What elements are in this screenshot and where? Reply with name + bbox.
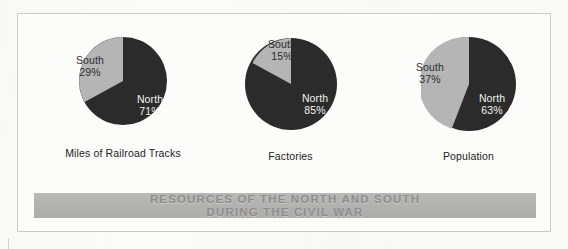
pie-graphic-factories <box>244 37 338 131</box>
figure-frame: South 29% North 71% Miles of Railroad Tr… <box>17 13 551 232</box>
pie-graphic-railroad <box>78 36 168 126</box>
pie-caption-factories: Factories <box>203 150 378 162</box>
pie-svg-population <box>421 36 517 132</box>
figure-title-banner: RESOURCES OF THE NORTH AND SOUTH DURING … <box>34 193 536 218</box>
pie-caption-railroad: Miles of Railroad Tracks <box>38 147 208 159</box>
pie-chart-railroad[interactable]: South 29% North 71% Miles of Railroad Tr… <box>38 14 208 184</box>
pie-svg-factories <box>244 37 338 131</box>
pie-graphic-population <box>421 36 517 132</box>
pie-chart-factories[interactable]: South 15% North 85% Factories <box>203 14 378 184</box>
page-margin-rule <box>8 238 9 249</box>
pie-chart-population[interactable]: South 37% North 63% Population <box>386 14 551 184</box>
figure-title-line-1: RESOURCES OF THE NORTH AND SOUTH <box>150 193 420 205</box>
pie-charts-row: South 29% North 71% Miles of Railroad Tr… <box>18 14 552 184</box>
pie-svg-railroad <box>78 36 168 126</box>
figure-title-line-2: DURING THE CIVIL WAR <box>207 206 364 218</box>
pie-caption-population: Population <box>386 150 551 162</box>
